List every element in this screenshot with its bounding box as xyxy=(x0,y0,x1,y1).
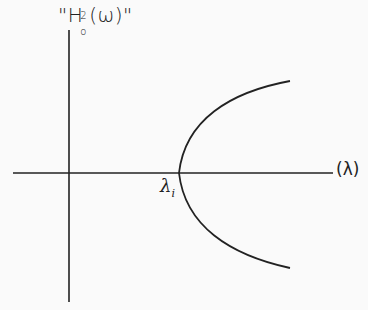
y-axis-label: "H2o(ω)" xyxy=(58,3,133,27)
superscript-2: 2 xyxy=(80,10,87,21)
x-axis-label: (λ) xyxy=(336,159,359,179)
parabola-curve xyxy=(179,81,290,268)
omega-argument: (ω) xyxy=(89,3,123,27)
close-quote: " xyxy=(123,3,133,27)
open-quote: " xyxy=(58,3,68,27)
vertex-label: λi xyxy=(160,175,175,200)
lambda-symbol: λ xyxy=(160,175,171,196)
diagram-canvas xyxy=(0,0,368,310)
subscript-o: o xyxy=(80,26,87,37)
subscript-i: i xyxy=(171,187,175,200)
